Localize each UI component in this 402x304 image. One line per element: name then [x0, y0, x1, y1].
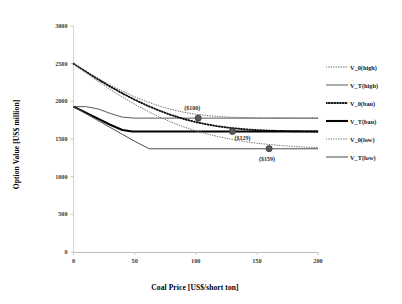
y-tick-label: 0: [34, 248, 68, 255]
legend-label: V_T(high): [350, 82, 378, 89]
x-tick-label: 100: [181, 257, 211, 264]
legend-item[interactable]: V_0(high): [326, 58, 402, 76]
series-line: [74, 64, 319, 132]
y-tick-label: 3000: [34, 22, 68, 29]
legend-label: V_T(bau): [350, 118, 376, 125]
legend-line-swatch: [326, 134, 348, 144]
x-axis-title: Coal Price [US$/short ton]: [60, 283, 330, 292]
y-axis-title: Option Value [US$ million]: [12, 85, 21, 205]
legend-item[interactable]: V_0(bau): [326, 94, 402, 112]
y-tick-label: 1000: [34, 173, 68, 180]
x-tick-label: 50: [120, 257, 150, 264]
y-tick-label: 2000: [34, 97, 68, 104]
y-tick-label: 1500: [34, 135, 68, 142]
legend-line-swatch: [326, 116, 348, 126]
legend-line-swatch: [326, 152, 348, 162]
legend-line-swatch: [326, 80, 348, 90]
x-tick-label: 150: [242, 257, 272, 264]
legend-item[interactable]: V_T(low): [326, 148, 402, 166]
x-tick-label: 200: [303, 257, 333, 264]
chart-legend: V_0(high)V_T(high)V_0(bau)V_T(bau)V_0(lo…: [326, 58, 402, 166]
marker-layer: [195, 115, 272, 152]
y-tick-label: 500: [34, 210, 68, 217]
legend-label: V_0(low): [350, 136, 374, 143]
tick-marks: [71, 26, 319, 255]
legend-line-swatch: [326, 98, 348, 108]
legend-line-swatch: [326, 62, 348, 72]
data-point-marker: [266, 146, 272, 152]
data-point-marker: [195, 115, 201, 121]
data-point-marker: [229, 128, 235, 134]
legend-label: V_T(low): [350, 154, 376, 161]
legend-item[interactable]: V_T(high): [326, 76, 402, 94]
legend-label: V_0(bau): [350, 100, 375, 107]
x-tick-label: 0: [59, 257, 89, 264]
data-point-label: ($100): [184, 105, 200, 111]
legend-item[interactable]: V_T(bau): [326, 112, 402, 130]
legend-label: V_0(high): [350, 64, 377, 71]
data-point-label: ($129): [234, 135, 250, 141]
data-point-label: ($159): [259, 156, 275, 162]
chart-figure: Option Value [US$ million] Coal Price [U…: [0, 0, 402, 304]
legend-item[interactable]: V_0(low): [326, 130, 402, 148]
y-tick-label: 2500: [34, 60, 68, 67]
